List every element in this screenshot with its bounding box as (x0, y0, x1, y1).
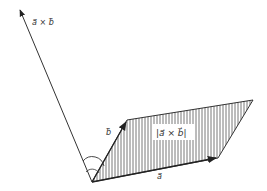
vector-b-label: b⃗ (106, 127, 111, 137)
parallelogram-area (92, 100, 253, 182)
angle-arc-icon (83, 157, 104, 166)
cross-product-arrow (20, 10, 92, 182)
cross-product-label: a⃗ × b⃗ (32, 17, 54, 27)
area-label: |a⃗ × b⃗| (156, 127, 187, 138)
vector-a-label: a⃗ (157, 172, 162, 181)
cross-product-diagram: a⃗ × b⃗ b⃗ |a⃗ × b⃗| a⃗ (0, 0, 267, 191)
